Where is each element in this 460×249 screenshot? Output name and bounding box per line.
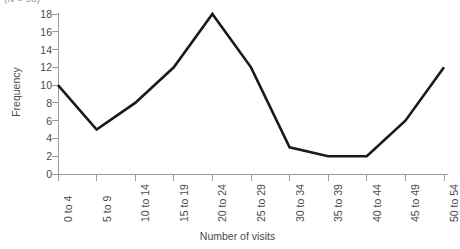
x-tick-label: 40 to 44 <box>371 184 383 222</box>
x-tick-label: 35 to 39 <box>332 184 344 222</box>
x-tick-label: 45 to 49 <box>409 184 421 222</box>
x-tick-label: 20 to 24 <box>216 184 228 222</box>
x-tick-label: 25 to 29 <box>255 184 267 222</box>
x-axis-title: Number of visits <box>0 230 451 242</box>
x-tick-label: 5 to 9 <box>101 196 113 222</box>
x-tick-label: 0 to 4 <box>62 196 74 222</box>
x-tick-label: 15 to 19 <box>178 184 190 222</box>
x-tick-label: 50 to 54 <box>448 184 460 222</box>
x-tick-label: 30 to 34 <box>294 184 306 222</box>
x-tick-label: 10 to 14 <box>139 184 151 222</box>
